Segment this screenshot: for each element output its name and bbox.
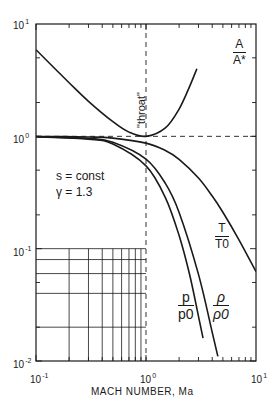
throat-annotation: "throat" bbox=[135, 92, 147, 128]
y-tick-1e-1: 10-1 bbox=[13, 243, 31, 258]
x-tick-1e1: 101 bbox=[251, 370, 267, 385]
x-tick-1e0: 100 bbox=[140, 370, 156, 385]
y-tick-1e0: 100 bbox=[13, 130, 29, 145]
density-ratio-label: ρρ0 bbox=[213, 290, 229, 321]
curve-aa bbox=[36, 50, 197, 137]
area-ratio-label: AA* bbox=[233, 38, 246, 67]
temperature-ratio-label: TT0 bbox=[215, 222, 229, 251]
inset-grid bbox=[36, 249, 146, 361]
pressure-ratio-label: pp0 bbox=[178, 290, 194, 321]
y-tick-1e1: 101 bbox=[13, 16, 29, 31]
entropy-condition: s = const bbox=[56, 171, 104, 182]
x-tick-1e-1: 10-1 bbox=[30, 370, 48, 385]
x-axis-label: MACH NUMBER, Ma bbox=[91, 386, 194, 397]
y-tick-1e-2: 10-2 bbox=[13, 355, 31, 370]
gamma-condition: γ = 1.3 bbox=[56, 187, 92, 198]
